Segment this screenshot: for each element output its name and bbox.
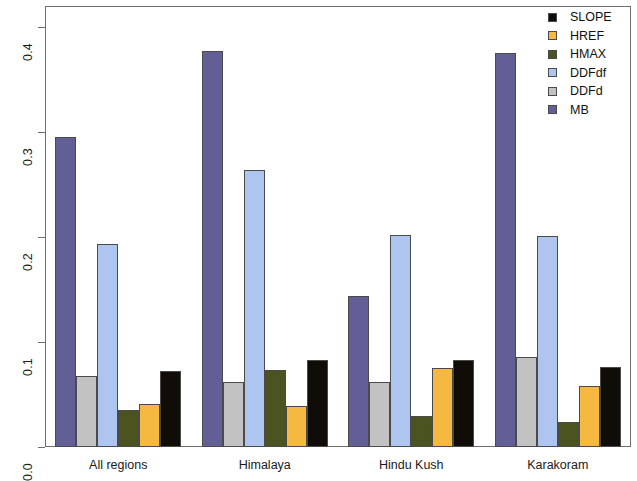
legend-swatch-icon bbox=[548, 105, 557, 114]
bar-slope-hindu-kush bbox=[453, 360, 474, 447]
legend-swatch-icon bbox=[548, 50, 557, 59]
y-axis-tick-mark bbox=[38, 132, 45, 133]
y-axis-tick-mark bbox=[38, 27, 45, 28]
legend-label: DDFd bbox=[570, 85, 603, 98]
bar-href-himalaya bbox=[286, 406, 307, 447]
legend-label: SLOPE bbox=[570, 11, 612, 24]
bar-chart-figure: 0.00.10.20.30.4 All regionsHimalayaHindu… bbox=[0, 0, 637, 481]
bar-ddfd-karakoram bbox=[516, 357, 537, 447]
x-axis-tick-label: Karakoram bbox=[527, 458, 588, 472]
bar-mb-karakoram bbox=[495, 53, 516, 447]
bar-mb-himalaya bbox=[202, 51, 223, 447]
legend-label: DDFdf bbox=[570, 67, 606, 80]
y-axis-tick-label: 0.2 bbox=[21, 253, 35, 271]
legend-item-hmax: HMAX bbox=[548, 45, 632, 64]
bar-slope-himalaya bbox=[307, 360, 328, 447]
legend-item-slope: SLOPE bbox=[548, 8, 632, 27]
bar-ddfdf-karakoram bbox=[537, 236, 558, 447]
bar-slope-all-regions bbox=[160, 371, 181, 447]
legend-item-ddfd: DDFd bbox=[548, 82, 632, 101]
bar-href-karakoram bbox=[579, 386, 600, 447]
bar-ddfd-hindu-kush bbox=[369, 382, 390, 447]
legend-label: HMAX bbox=[570, 48, 606, 61]
legend-item-mb: MB bbox=[548, 101, 632, 120]
legend-item-ddfdf: DDFdf bbox=[548, 64, 632, 83]
bar-ddfdf-hindu-kush bbox=[390, 235, 411, 447]
bar-mb-hindu-kush bbox=[348, 296, 369, 447]
x-axis-tick-label: All regions bbox=[89, 458, 147, 472]
bar-slope-karakoram bbox=[600, 367, 621, 447]
bar-hmax-karakoram bbox=[558, 422, 579, 447]
y-axis-tick-mark bbox=[38, 447, 45, 448]
y-axis-tick-mark bbox=[38, 342, 45, 343]
bar-ddfd-all-regions bbox=[76, 376, 97, 447]
y-axis-tick-mark bbox=[38, 237, 45, 238]
x-axis-tick-label: Himalaya bbox=[239, 458, 291, 472]
y-axis: 0.00.10.20.30.4 bbox=[0, 0, 45, 481]
chart-legend: SLOPEHREFHMAXDDFdfDDFdMB bbox=[548, 8, 632, 119]
bar-hmax-all-regions bbox=[118, 410, 139, 447]
x-axis: All regionsHimalayaHindu KushKarakoram bbox=[45, 452, 631, 480]
legend-swatch-icon bbox=[548, 31, 557, 40]
bar-mb-all-regions bbox=[55, 137, 76, 447]
bars-layer bbox=[45, 6, 631, 447]
y-axis-tick-label: 0.3 bbox=[21, 148, 35, 166]
y-axis-tick-label: 0.4 bbox=[21, 43, 35, 61]
legend-label: HREF bbox=[570, 30, 604, 43]
y-axis-tick-label: 0.0 bbox=[21, 463, 35, 481]
bar-hmax-hindu-kush bbox=[411, 416, 432, 448]
y-axis-tick-label: 0.1 bbox=[21, 358, 35, 376]
x-axis-tick-label: Hindu Kush bbox=[379, 458, 444, 472]
legend-swatch-icon bbox=[548, 68, 557, 77]
bar-href-all-regions bbox=[139, 404, 160, 447]
bar-ddfd-himalaya bbox=[223, 382, 244, 447]
bar-ddfdf-himalaya bbox=[244, 170, 265, 447]
legend-label: MB bbox=[570, 104, 589, 117]
bar-hmax-himalaya bbox=[265, 370, 286, 447]
bar-ddfdf-all-regions bbox=[97, 244, 118, 447]
legend-swatch-icon bbox=[548, 87, 557, 96]
legend-item-href: HREF bbox=[548, 27, 632, 46]
bar-href-hindu-kush bbox=[432, 368, 453, 447]
legend-swatch-icon bbox=[548, 13, 557, 22]
